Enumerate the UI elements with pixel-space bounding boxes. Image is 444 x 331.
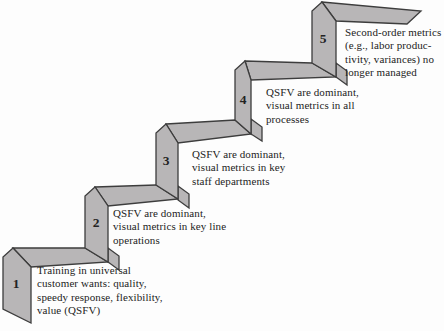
step-label-5-line-2: (e.g., labor produc-: [345, 39, 441, 52]
staircase-diagram: 1 2 3 4 5 Training in universal customer…: [0, 0, 444, 331]
tread-step-5: [322, 2, 421, 24]
step-label-5-line-3: tivity, variances) no: [345, 53, 441, 66]
step-label-5: Second-order metrics (e.g., labor produc…: [345, 26, 441, 79]
tread-tip-step-2: [178, 186, 189, 208]
step-label-3-line-1: QSFV are dominant,: [192, 148, 285, 161]
step-label-4-line-3: processes: [266, 113, 359, 126]
step-number-3: 3: [163, 153, 170, 168]
step-label-2-line-3: operations: [113, 234, 226, 247]
step-label-1-line-1: Training in universal: [37, 264, 163, 277]
step-label-4-line-1: QSFV are dominant,: [266, 86, 359, 99]
step-number-1: 1: [13, 276, 20, 291]
step-number-4: 4: [240, 92, 247, 107]
step-label-3: QSFV are dominant, visual metrics in key…: [192, 148, 285, 188]
step-number-2: 2: [93, 215, 100, 230]
step-label-4: QSFV are dominant, visual metrics in all…: [266, 86, 359, 126]
step-label-1-line-4: value (QSFV): [37, 304, 163, 317]
step-label-5-line-4: longer managed: [345, 66, 441, 79]
step-label-2-line-2: visual metrics in key line: [113, 220, 226, 233]
step-label-2-line-1: QSFV are dominant,: [113, 207, 226, 220]
step-number-5: 5: [320, 31, 327, 46]
step-label-3-line-2: visual metrics in key: [192, 161, 285, 174]
step-label-5-line-1: Second-order metrics: [345, 26, 441, 39]
step-label-3-line-3: staff departments: [192, 175, 285, 188]
step-label-2: QSFV are dominant, visual metrics in key…: [113, 207, 226, 247]
step-label-4-line-2: visual metrics in all: [266, 99, 359, 112]
step-label-1-line-3: speedy response, flexibility,: [37, 291, 163, 304]
step-label-1-line-2: customer wants: quality,: [37, 277, 163, 290]
step-label-1: Training in universal customer wants: qu…: [37, 264, 163, 317]
tread-tip-step-3: [251, 119, 262, 141]
